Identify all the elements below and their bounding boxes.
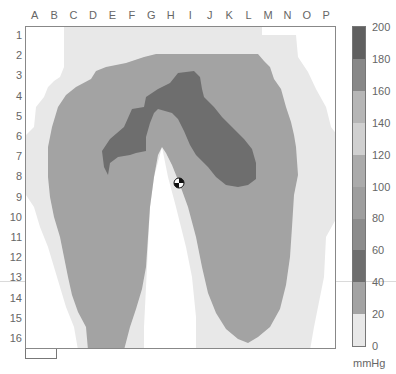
column-label: I [180,9,200,21]
row-label: 7 [0,150,22,162]
row-label: 10 [0,211,22,223]
colorbar-segment [353,155,365,187]
colorbar [352,26,366,347]
row-label: 13 [0,271,22,283]
colorbar-tick-label: 100 [372,181,390,193]
colorbar-segment [353,123,365,155]
colorbar-unit-label: mmHg [353,357,385,369]
column-label: O [297,9,317,21]
pressure-map-graphic [26,27,336,349]
row-label: 2 [0,49,22,61]
colorbar-tick-label: 140 [372,117,390,129]
colorbar-tick-label: 120 [372,149,390,161]
column-label: G [141,9,161,21]
colorbar-segment [353,91,365,123]
colorbar-segment [353,187,365,219]
row-label: 8 [0,170,22,182]
scale-indicator [25,349,57,359]
column-label: N [277,9,297,21]
row-label: 12 [0,251,22,263]
row-label: 14 [0,292,22,304]
column-label: E [102,9,122,21]
row-label: 9 [0,191,22,203]
row-label: 15 [0,312,22,324]
column-label: L [239,9,259,21]
notch [190,317,194,349]
center-of-pressure-icon [174,178,184,188]
column-label: M [258,9,278,21]
column-label: P [316,9,336,21]
column-label: D [83,9,103,21]
column-label: J [200,9,220,21]
colorbar-tick-label: 200 [372,21,390,33]
colorbar-tick-label: 60 [372,244,384,256]
colorbar-segment [353,218,365,250]
column-label: A [25,9,45,21]
colorbar-segment [353,27,365,59]
row-label: 16 [0,332,22,344]
row-label: 5 [0,110,22,122]
column-label: C [64,9,84,21]
row-label: 11 [0,231,22,243]
colorbar-segment [353,282,365,314]
colorbar-tick-label: 80 [372,212,384,224]
colorbar-tick-label: 180 [372,53,390,65]
column-label: B [44,9,64,21]
row-label: 4 [0,90,22,102]
pressure-map [25,26,336,349]
colorbar-tick-label: 160 [372,85,390,97]
row-label: 3 [0,69,22,81]
row-label: 1 [0,29,22,41]
colorbar-segment [353,250,365,282]
colorbar-tick-label: 0 [372,340,378,352]
colorbar-segment [353,314,365,346]
colorbar-segment [353,59,365,91]
column-label: K [219,9,239,21]
colorbar-tick-label: 40 [372,276,384,288]
row-label: 6 [0,130,22,142]
column-label: H [161,9,181,21]
colorbar-tick-label: 20 [372,308,384,320]
column-label: F [122,9,142,21]
